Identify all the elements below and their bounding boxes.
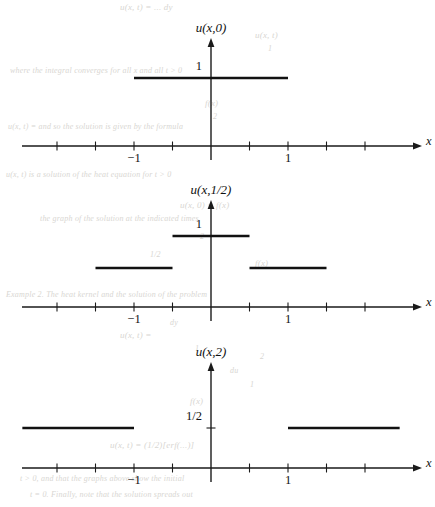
y-axis-arrowhead: [208, 38, 215, 47]
plot-title: u(x,1/2): [191, 182, 232, 198]
plot-u-x-0: [22, 38, 422, 160]
x-tick-label: 1: [285, 151, 291, 166]
x-tick-label: 1: [285, 473, 291, 488]
x-tick-label: 1: [285, 312, 291, 327]
x-tick-label: −1: [127, 473, 140, 488]
y-axis-arrowhead: [208, 200, 215, 209]
y-tick-label: 1: [196, 217, 202, 232]
x-tick-label: −1: [127, 151, 140, 166]
y-tick-label: 1: [196, 59, 202, 74]
plot-title: u(x,2): [196, 344, 227, 360]
x-axis-label: x: [426, 456, 432, 471]
y-axis-arrowhead: [208, 362, 215, 371]
x-axis-arrowhead: [413, 143, 422, 150]
x-axis-arrowhead: [413, 465, 422, 472]
x-tick-label: −1: [127, 312, 140, 327]
x-axis-label: x: [426, 295, 432, 310]
figure-container: u(x, t) = ... dyu(x, t)1where the integr…: [0, 0, 435, 507]
x-axis-arrowhead: [413, 304, 422, 311]
y-tick-label: 1/2: [186, 409, 202, 424]
plots-svg: [0, 0, 435, 507]
plot-title: u(x,0): [196, 20, 227, 36]
plot-u-x-2: [22, 362, 422, 482]
plot-u-x-half: [22, 200, 422, 321]
x-axis-label: x: [426, 134, 432, 149]
